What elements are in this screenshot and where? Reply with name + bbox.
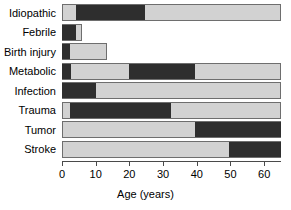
category-label-stroke: Stroke: [24, 144, 56, 155]
x-tick-label-40: 40: [191, 168, 203, 180]
bar-peak-trauma: [70, 103, 171, 118]
bar-peak-infection: [62, 83, 96, 98]
category-label-infection: Infection: [14, 86, 56, 97]
bar-range-birth-injury: [62, 43, 107, 60]
bar-peak-metabolic-2: [129, 64, 194, 79]
bar-peak-febrile: [62, 25, 76, 40]
bar-peak-idiopathic: [76, 5, 145, 20]
x-tick-label-20: 20: [123, 168, 135, 180]
x-tick-10: [96, 161, 97, 166]
x-axis-title: Age (years): [0, 188, 291, 200]
bar-range-febrile: [62, 24, 82, 41]
bar-peak-tumor: [195, 122, 281, 137]
plot-area: [62, 4, 281, 160]
x-tick-label-10: 10: [90, 168, 102, 180]
bar-peak-birth-injury: [62, 44, 70, 59]
x-tick-label-30: 30: [157, 168, 169, 180]
bar-row: [62, 24, 281, 41]
bar-row: [62, 63, 281, 80]
x-tick-label-50: 50: [224, 168, 236, 180]
bar-row: [62, 102, 281, 119]
bar-range-idiopathic: [62, 4, 281, 21]
bar-peak-stroke: [229, 142, 281, 157]
x-tick-20: [129, 161, 130, 166]
x-tick-30: [163, 161, 164, 166]
x-tick-0: [62, 161, 63, 166]
bar-row: [62, 141, 281, 158]
bar-row: [62, 121, 281, 138]
category-label-idiopathic: Idiopathic: [9, 8, 56, 19]
category-label-febrile: Febrile: [22, 27, 56, 38]
category-label-birth-injury: Birth injury: [4, 47, 56, 58]
category-label-metabolic: Metabolic: [9, 66, 56, 77]
bar-row: [62, 43, 281, 60]
bar-range-tumor: [62, 121, 281, 138]
bar-range-infection: [62, 82, 281, 99]
x-tick-60: [264, 161, 265, 166]
bar-range-metabolic: [62, 63, 281, 80]
x-tick-label-60: 60: [258, 168, 270, 180]
bar-chart: Idiopathic Febrile Birth injury Metaboli…: [0, 0, 291, 210]
bar-range-trauma: [62, 102, 281, 119]
category-label-trauma: Trauma: [19, 105, 57, 116]
category-label-tumor: Tumor: [25, 125, 56, 136]
bar-peak-metabolic: [62, 64, 71, 79]
x-tick-label-0: 0: [59, 168, 65, 180]
bar-range-stroke: [62, 141, 281, 158]
x-tick-40: [197, 161, 198, 166]
bar-row: [62, 82, 281, 99]
x-tick-50: [230, 161, 231, 166]
bar-row: [62, 4, 281, 21]
